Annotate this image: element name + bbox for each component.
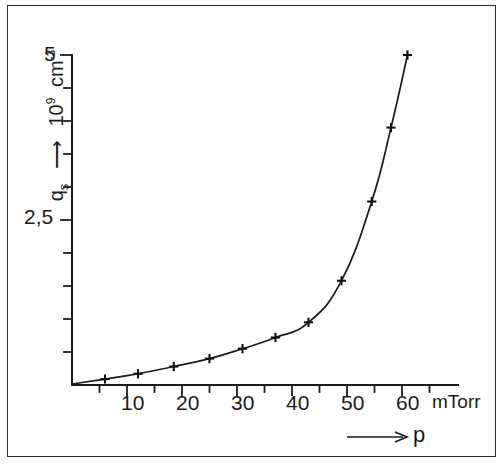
x-tick-label-60: 60 [396,392,419,413]
x-axis-unit-label: mTorr [432,392,481,411]
x-axis-ticks [100,385,430,395]
y-axis-title: qs ⟶ 109 cm-3 [44,31,71,221]
y-axis-unit-rest: cm [45,60,67,87]
x-tick-label-40: 40 [286,392,309,413]
data-curve [72,55,408,384]
y-axis-title-subscript: s [56,184,71,191]
x-tick-label-30: 30 [231,392,254,413]
y-axis-arrow-icon: ⟶ [44,141,68,169]
x-axis-arrow-icon [345,428,415,446]
figure-container: 5 2,5 qs ⟶ 109 cm-3 10 20 30 40 50 60 mT… [0,0,504,465]
y-axis-title-symbol: q [45,190,67,201]
y-axis-unit-rest-exponent: -3 [44,50,58,61]
y-axis-unit-exponent: 9 [44,98,58,105]
x-tick-label-10: 10 [121,392,144,413]
y-axis-unit-mantissa: 10 [45,104,67,126]
x-tick-label-50: 50 [341,392,364,413]
data-point-markers [100,50,412,383]
axis-lines [72,55,458,385]
x-tick-label-20: 20 [176,392,199,413]
